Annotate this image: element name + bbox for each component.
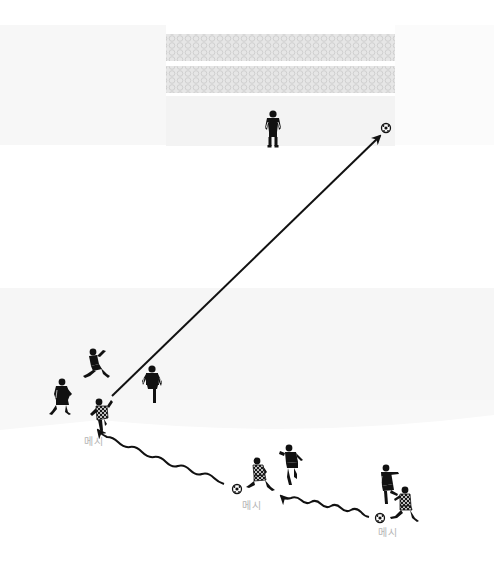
- soccer-tactics-diagram: [0, 0, 494, 571]
- messi-player-icon: [246, 458, 275, 491]
- defender-icon: [279, 445, 303, 485]
- dribble-arrow-2: [281, 496, 369, 517]
- goal-area: [166, 96, 395, 146]
- label-messi-mid: 메시: [242, 497, 261, 512]
- label-messi-shot: 메시: [84, 433, 103, 448]
- ball-goal-icon: [382, 124, 391, 133]
- ball-mid-icon: [233, 485, 242, 494]
- label-messi-start: 메시: [378, 524, 397, 539]
- goal-net-upper: [166, 34, 395, 61]
- messi-player-icon: [390, 487, 419, 522]
- ball-start-icon: [376, 514, 385, 523]
- dribble-arrow-1: [98, 430, 224, 484]
- goal-net-lower: [166, 66, 395, 93]
- goal: [166, 34, 395, 146]
